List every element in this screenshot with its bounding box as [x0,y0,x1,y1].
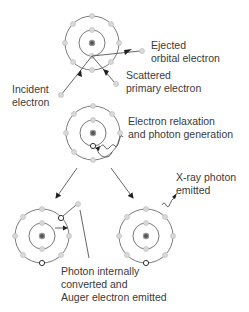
atom-auger [13,202,90,266]
vacancy [90,143,95,148]
label-xray-2: emitted [176,184,211,196]
nucleus [143,233,148,238]
auger-electron-path [63,205,76,216]
vacancy-bottom [143,260,148,265]
label-incident-2: electron [12,96,50,108]
nucleus [90,130,95,135]
label-auger-2: converted and [61,278,128,290]
label-ejected-2: orbital electron [151,52,220,64]
nucleus [89,40,94,45]
electrons [13,207,72,258]
nucleus [39,233,44,238]
electrons [117,207,176,258]
incident-electron-path [61,56,92,95]
label-auger-1: Photon internally [61,265,140,277]
label-auger-3: Auger electron emitted [61,291,167,303]
label-xray-1: X-ray photon [176,171,236,183]
label-relaxation-1: Electron relaxation [128,115,215,127]
label-scattered-2: primary electron [126,82,201,94]
label-leader-line [80,210,89,258]
label-relaxation-2: and photon generation [128,128,233,140]
label-scattered-1: Scattered [126,69,171,81]
auger-electron [76,202,81,207]
ejected-electron [140,49,145,54]
atom-relaxation [64,104,124,163]
label-incident-1: Incident [12,83,49,95]
incident-electron [59,93,64,98]
vacancy-bottom [39,260,44,265]
label-ejected-1: Ejected [151,39,186,51]
electron-interaction-diagram: Ejected orbital electron Scattered prima… [0,0,249,312]
branch-arrow-auger [56,168,77,198]
scattered-electron [114,82,119,87]
vacancy-outer [58,215,63,220]
atom-xray [117,193,178,266]
branch-arrow-xray [111,168,133,198]
